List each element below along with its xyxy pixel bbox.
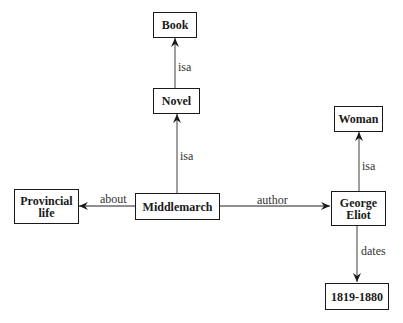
edge-label-about: about — [100, 193, 127, 205]
node-woman: Woman — [334, 106, 383, 132]
semantic-network-diagram: Book Novel Middlemarch Provincial life G… — [0, 0, 403, 323]
node-book: Book — [153, 12, 197, 38]
edges-layer — [0, 0, 403, 323]
edge-label-dates: dates — [361, 245, 386, 257]
edge-label-isa-novel-book: isa — [178, 61, 191, 73]
node-1819-1880: 1819-1880 — [325, 283, 389, 310]
edge-label-isa-middlemarch-novel: isa — [180, 150, 193, 162]
edge-label-isa-eliot-woman: isa — [362, 160, 375, 172]
edge-label-author: author — [257, 194, 288, 206]
node-provincial-life: Provincial life — [14, 189, 79, 224]
node-george-eliot: George Eliot — [331, 191, 386, 226]
node-novel: Novel — [153, 88, 200, 114]
node-middlemarch: Middlemarch — [135, 193, 220, 220]
